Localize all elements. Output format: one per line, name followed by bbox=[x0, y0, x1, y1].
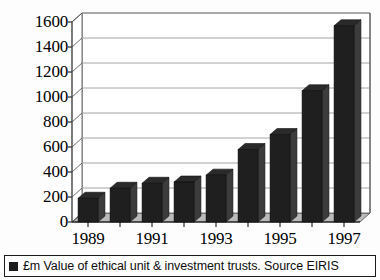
legend-marker-icon bbox=[9, 262, 18, 271]
bar-chart: 02004006008001000120014001600 1989199119… bbox=[0, 0, 380, 252]
bar bbox=[270, 129, 297, 223]
y-axis-tick-label: 400 bbox=[6, 163, 68, 180]
y-axis-tick-label: 200 bbox=[6, 188, 68, 205]
bar-front-face bbox=[174, 182, 194, 222]
bar-side-face bbox=[226, 169, 233, 222]
x-axis-tick-label: 1991 bbox=[122, 230, 182, 247]
bar bbox=[206, 169, 233, 222]
legend-label: £m Value of ethical unit & investment tr… bbox=[23, 260, 339, 273]
x-axis-tick-label: 1989 bbox=[58, 230, 118, 247]
x-axis-tick-label: 1995 bbox=[250, 230, 310, 247]
bar-front-face bbox=[270, 135, 290, 223]
x-axis-tick-labels: 19891991199319951997 bbox=[0, 228, 380, 252]
x-axis-tick-label: 1997 bbox=[314, 230, 374, 247]
y-axis-tick-label: 600 bbox=[6, 138, 68, 155]
bar-side-face bbox=[194, 176, 201, 222]
x-axis-tick-label: 1993 bbox=[186, 230, 246, 247]
bar-front-face bbox=[78, 198, 98, 222]
bar-side-face bbox=[322, 85, 329, 222]
bar bbox=[174, 176, 201, 222]
y-axis-tick-label: 1400 bbox=[6, 38, 68, 55]
y-axis-tick-label: 800 bbox=[6, 113, 68, 130]
y-axis-tick-label: 1200 bbox=[6, 63, 68, 80]
bar bbox=[142, 177, 169, 222]
bar bbox=[238, 144, 265, 223]
chart-legend: £m Value of ethical unit & investment tr… bbox=[4, 255, 376, 277]
bar bbox=[78, 192, 105, 222]
bar-side-face bbox=[290, 129, 297, 223]
bar bbox=[334, 20, 361, 222]
bar bbox=[110, 182, 137, 222]
y-axis-tick-labels: 02004006008001000120014001600 bbox=[0, 0, 68, 252]
y-axis-tick-label: 1000 bbox=[6, 88, 68, 105]
bar-front-face bbox=[206, 175, 226, 222]
bar-side-face bbox=[130, 182, 137, 222]
bar-front-face bbox=[334, 26, 354, 222]
y-axis-tick-label: 1600 bbox=[6, 13, 68, 30]
bar-side-face bbox=[258, 144, 265, 223]
bar-side-face bbox=[354, 20, 361, 222]
bar-side-face bbox=[162, 177, 169, 222]
bar-front-face bbox=[302, 91, 322, 222]
bar-front-face bbox=[110, 188, 130, 222]
bar bbox=[302, 85, 329, 222]
chart-figure: 02004006008001000120014001600 1989199119… bbox=[0, 0, 380, 280]
bar-front-face bbox=[238, 150, 258, 223]
bar-front-face bbox=[142, 183, 162, 222]
